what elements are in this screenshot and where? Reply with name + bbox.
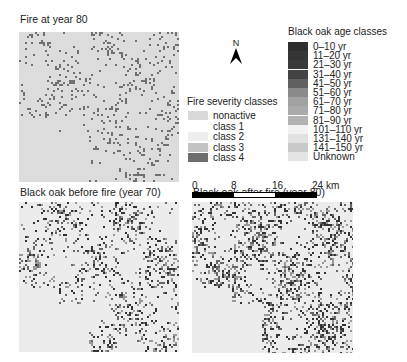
- scale-ticks: 0 8 16 24 km: [192, 180, 352, 192]
- age-legend-swatch: [288, 152, 308, 161]
- age-legend-label: Unknown: [313, 152, 355, 161]
- age-legend-swatch: [288, 143, 308, 152]
- scale-bar-graphic: [192, 192, 317, 198]
- age-legend-swatch: [288, 134, 308, 143]
- fire-legend-swatch: [188, 132, 208, 141]
- age-legend-swatch: [288, 70, 308, 79]
- fire-map: [19, 32, 179, 182]
- fire-legend-item: class 1: [188, 122, 244, 131]
- scale-segment: [275, 193, 316, 197]
- oak-before-map-canvas: [19, 202, 179, 352]
- scale-segment: [234, 193, 275, 197]
- north-arrow-icon: [229, 48, 243, 64]
- scale-tick: 24 km: [312, 180, 339, 191]
- fire-legend-swatch: [188, 143, 208, 152]
- fire-legend-title: Fire severity classes: [187, 96, 278, 107]
- age-legend-swatch: [288, 116, 308, 125]
- fire-legend-item: class 2: [188, 132, 244, 141]
- scale-segment: [193, 193, 234, 197]
- age-legend-swatch: [288, 106, 308, 115]
- scale-tick: 8: [231, 180, 237, 191]
- fire-legend-swatch: [188, 122, 208, 131]
- age-legend-swatch: [288, 97, 308, 106]
- oak-after-map-canvas: [192, 202, 353, 353]
- scale-bar: 0 8 16 24 km: [192, 180, 352, 198]
- north-arrow: N: [228, 38, 244, 68]
- panel-title-oak-before: Black oak before fire (year 70): [20, 186, 161, 198]
- age-legend-swatch: [288, 42, 308, 51]
- age-legend-swatch: [288, 60, 308, 69]
- fire-legend-label: class 3: [213, 143, 244, 152]
- fire-legend-swatch: [188, 153, 208, 162]
- age-legend-swatch: [288, 51, 308, 60]
- fire-legend-item: class 3: [188, 143, 244, 152]
- fire-legend-label: class 2: [213, 132, 244, 141]
- fire-map-canvas: [19, 32, 179, 182]
- oak-before-map: [19, 202, 179, 352]
- fire-legend-swatch: [188, 111, 208, 120]
- fire-legend-label: class 4: [213, 153, 244, 162]
- age-legend-swatch: [288, 79, 308, 88]
- north-label: N: [228, 38, 244, 48]
- age-legend-swatch: [288, 125, 308, 134]
- fire-legend-item: nonactive: [188, 111, 256, 120]
- scale-tick: 0: [192, 180, 198, 191]
- panel-title-fire: Fire at year 80: [20, 13, 88, 25]
- fire-legend-label: nonactive: [213, 111, 256, 120]
- oak-after-map: [192, 202, 353, 353]
- fire-legend-label: class 1: [213, 122, 244, 131]
- age-legend-swatch: [288, 88, 308, 97]
- scale-tick: 16: [272, 180, 283, 191]
- age-legend-title: Black oak age classes: [288, 26, 387, 37]
- age-legend-item: Unknown: [288, 152, 355, 161]
- fire-legend-item: class 4: [188, 153, 244, 162]
